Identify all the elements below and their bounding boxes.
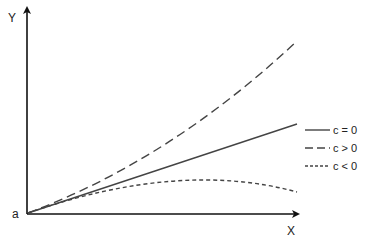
- x-axis-label: X: [287, 224, 295, 238]
- legend-label: c = 0: [333, 124, 357, 136]
- series-c-positive: [28, 41, 297, 213]
- chart: Y X a c = 0 c > 0 c < 0: [0, 0, 373, 242]
- origin-label: a: [12, 207, 19, 221]
- y-axis-label: Y: [8, 11, 16, 25]
- legend-label: c > 0: [333, 142, 357, 154]
- legend-label: c < 0: [333, 160, 357, 172]
- legend: c = 0 c > 0 c < 0: [305, 124, 357, 172]
